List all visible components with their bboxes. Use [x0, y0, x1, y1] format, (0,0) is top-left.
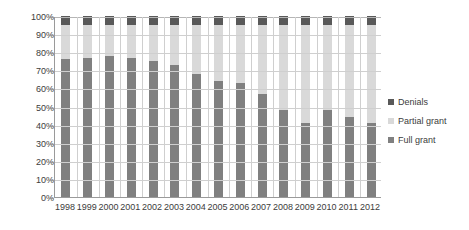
y-axis-tick-label: 30% — [20, 140, 54, 149]
bar-segment[interactable] — [61, 59, 70, 197]
category-separator — [164, 17, 165, 197]
x-axis-tick-label: 2009 — [294, 202, 316, 212]
gridline — [55, 180, 381, 181]
gridline — [55, 126, 381, 127]
bar-segment[interactable] — [323, 110, 332, 197]
legend-swatch-icon — [388, 118, 394, 124]
bar-segment[interactable] — [149, 61, 158, 197]
bar-segment[interactable] — [323, 25, 332, 110]
x-axis-tick-label: 2010 — [316, 202, 338, 212]
x-axis-tick-label: 2000 — [98, 202, 120, 212]
x-axis-tick-label: 1998 — [54, 202, 76, 212]
category-separator — [186, 17, 187, 197]
x-axis-tick-label: 2008 — [272, 202, 294, 212]
x-axis-tick-label: 2005 — [207, 202, 229, 212]
bar-segment[interactable] — [301, 123, 310, 197]
legend-swatch-icon — [388, 137, 394, 143]
x-axis-tick-label: 2006 — [228, 202, 250, 212]
bar-segment[interactable] — [61, 25, 70, 59]
legend-label: Partial grant — [398, 116, 447, 126]
bar-segment[interactable] — [83, 58, 92, 197]
gridline — [55, 108, 381, 109]
y-axis-tick-label: 90% — [20, 31, 54, 40]
legend: DenialsPartial grantFull grant — [388, 92, 468, 149]
gridline — [55, 162, 381, 163]
y-axis-tick-label: 70% — [20, 67, 54, 76]
bar-segment[interactable] — [192, 25, 201, 74]
y-axis: 100%90%80%70%60%50%40%30%20%10%0% — [0, 17, 54, 198]
y-axis-tick-label: 0% — [20, 194, 54, 203]
bar-segment[interactable] — [367, 123, 376, 197]
y-axis-tick-label: 20% — [20, 158, 54, 167]
gridline — [55, 71, 381, 72]
stacked-bar-chart: 100%90%80%70%60%50%40%30%20%10%0% 199819… — [0, 0, 469, 230]
gridline — [55, 17, 381, 18]
category-separator — [338, 17, 339, 197]
y-axis-tick-label: 40% — [20, 122, 54, 131]
category-separator — [251, 17, 252, 197]
category-separator — [99, 17, 100, 197]
category-separator — [317, 17, 318, 197]
gridline — [55, 89, 381, 90]
legend-swatch-icon — [388, 99, 394, 105]
bar-segment[interactable] — [105, 25, 114, 56]
legend-label: Full grant — [398, 135, 436, 145]
category-separator — [120, 17, 121, 197]
bar-segment[interactable] — [149, 25, 158, 61]
category-separator — [295, 17, 296, 197]
x-axis-tick-label: 2007 — [250, 202, 272, 212]
x-axis-tick-label: 2002 — [141, 202, 163, 212]
x-axis-tick-label: 2003 — [163, 202, 185, 212]
bar-segment[interactable] — [345, 117, 354, 197]
gridline — [55, 35, 381, 36]
bar-segment[interactable] — [258, 94, 267, 197]
category-separator — [273, 17, 274, 197]
plot-area — [54, 17, 381, 198]
x-axis: 1998199920002001200220032004200520062007… — [54, 200, 381, 216]
x-axis-tick-label: 1999 — [76, 202, 98, 212]
legend-label: Denials — [398, 97, 428, 107]
x-axis-tick-label: 2011 — [337, 202, 359, 212]
gridline — [55, 144, 381, 145]
category-separator — [360, 17, 361, 197]
bar-segment[interactable] — [279, 25, 288, 110]
bar-segment[interactable] — [127, 58, 136, 197]
y-axis-tick-label: 80% — [20, 49, 54, 58]
y-axis-tick-label: 10% — [20, 176, 54, 185]
bar-segment[interactable] — [170, 25, 179, 65]
category-separator — [208, 17, 209, 197]
category-separator — [142, 17, 143, 197]
y-axis-tick-mark — [50, 198, 54, 199]
x-axis-tick-label: 2012 — [359, 202, 381, 212]
x-axis-tick-label: 2004 — [185, 202, 207, 212]
legend-item[interactable]: Full grant — [388, 130, 468, 149]
bar-segment[interactable] — [279, 110, 288, 197]
y-axis-tick-label: 60% — [20, 85, 54, 94]
y-axis-tick-label: 100% — [20, 13, 54, 22]
gridline — [55, 53, 381, 54]
y-axis-tick-label: 50% — [20, 104, 54, 113]
category-separator — [77, 17, 78, 197]
legend-item[interactable]: Denials — [388, 92, 468, 111]
legend-item[interactable]: Partial grant — [388, 111, 468, 130]
category-separator — [229, 17, 230, 197]
bar-segment[interactable] — [192, 74, 201, 197]
x-axis-tick-label: 2001 — [119, 202, 141, 212]
bar-segment[interactable] — [170, 65, 179, 197]
